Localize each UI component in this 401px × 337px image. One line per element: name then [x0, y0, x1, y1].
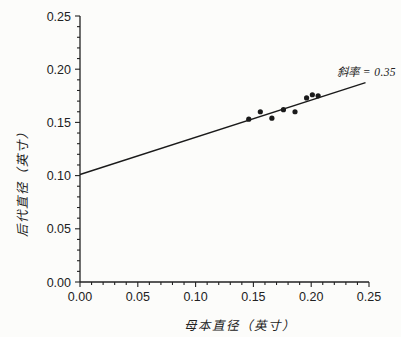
chart-canvas: 0.000.050.100.150.200.250.000.050.100.15…: [0, 0, 401, 337]
y-axis-tick-label: 0.15: [47, 116, 71, 130]
y-axis-tick-label: 0.00: [47, 276, 71, 290]
scatter-point: [246, 117, 251, 122]
scatter-point: [304, 95, 309, 100]
scatter-point: [316, 93, 321, 98]
scatter-point: [258, 109, 263, 114]
scatter-point: [292, 109, 297, 114]
x-axis-tick-label: 0.00: [68, 290, 92, 304]
regression-line: [80, 83, 366, 175]
x-axis-tick-label: 0.15: [241, 290, 265, 304]
x-axis-tick-label: 0.10: [183, 290, 207, 304]
y-axis-tick-label: 0.10: [47, 169, 71, 183]
y-axis-tick-label: 0.05: [47, 222, 71, 236]
y-axis-tick-label: 0.25: [47, 10, 71, 24]
scatter-plot-figure: 0.000.050.100.150.200.250.000.050.100.15…: [0, 0, 401, 337]
scatter-point: [310, 92, 315, 97]
y-axis-label: 后代直径（英寸）: [12, 125, 31, 237]
scatter-point: [269, 116, 274, 121]
x-axis-tick-label: 0.20: [299, 290, 323, 304]
scatter-point: [281, 107, 286, 112]
x-axis-label: 母本直径（英寸）: [184, 315, 296, 334]
y-axis-tick-label: 0.20: [47, 63, 71, 77]
x-axis-tick-label: 0.05: [126, 290, 150, 304]
x-axis-tick-label: 0.25: [357, 290, 381, 304]
slope-annotation: 斜率 = 0.35: [337, 63, 396, 79]
